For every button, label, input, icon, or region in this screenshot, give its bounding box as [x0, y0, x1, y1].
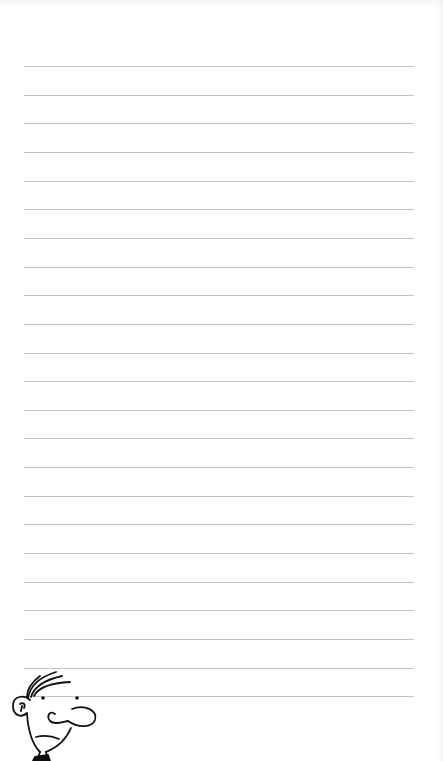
- ruled-line: [24, 438, 414, 439]
- ruled-line: [24, 639, 414, 640]
- notebook-page: [0, 0, 443, 761]
- ruled-line: [24, 123, 414, 124]
- ruled-line: [24, 353, 414, 354]
- ruled-line: [24, 181, 414, 182]
- ruled-line: [24, 267, 414, 268]
- ruled-line: [24, 324, 414, 325]
- ruled-line: [24, 95, 414, 96]
- cartoon-face-icon: [0, 660, 110, 761]
- ruled-line: [24, 553, 414, 554]
- ruled-line: [24, 610, 414, 611]
- ruled-line: [24, 152, 414, 153]
- ruled-line: [24, 524, 414, 525]
- ruled-line: [24, 381, 414, 382]
- ruled-line: [24, 295, 414, 296]
- ruled-line: [24, 66, 414, 67]
- ruled-line: [24, 582, 414, 583]
- ruled-line: [24, 496, 414, 497]
- ruled-line: [24, 410, 414, 411]
- ruled-line: [24, 238, 414, 239]
- ruled-line: [24, 209, 414, 210]
- ruled-line: [24, 467, 414, 468]
- ruled-lines: [0, 0, 443, 761]
